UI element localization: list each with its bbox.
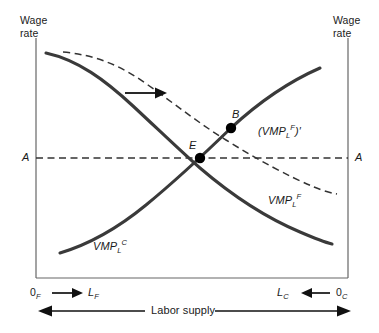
labor-supply-diagram: Wage rate Wage rate A A E B (VMPLF)′ VMP… — [0, 0, 379, 333]
point-e-marker — [195, 153, 205, 163]
point-label-e: E — [189, 139, 196, 151]
curve-vmp-f-shifted — [63, 52, 337, 194]
labor-supply-caption: Labor supply — [151, 304, 215, 316]
vmp-f-shift-sub: L — [286, 131, 290, 140]
direction-label-city: LC — [277, 286, 289, 300]
vmp-c-sup: C — [121, 238, 127, 247]
vmp-c-base: VMP — [93, 240, 117, 252]
point-label-b: B — [232, 108, 239, 120]
shift-arrow-icon — [125, 88, 167, 99]
vmp-f-shift-close: )′ — [295, 125, 301, 137]
curve-label-vmp-c: VMPLC — [93, 240, 127, 254]
vmp-c-sub: L — [117, 246, 121, 255]
left-axis-title: Wage rate — [20, 14, 47, 39]
left-origin-arrow-icon — [52, 288, 83, 298]
vmp-f-shift-base: VMP — [262, 125, 286, 137]
vmp-f-sup: F — [296, 192, 301, 201]
origin-city-sub: C — [342, 292, 348, 301]
curve-label-vmp-f: VMPLF — [268, 194, 301, 208]
right-axis-title: Wage rate — [333, 14, 360, 39]
point-b-marker — [226, 123, 236, 133]
vmp-f-base: VMP — [268, 194, 292, 206]
direction-farm-sub: F — [94, 292, 99, 301]
wage-level-label-right: A — [355, 151, 362, 163]
wage-level-label-left: A — [22, 151, 29, 163]
diagram-canvas — [0, 0, 379, 333]
origin-label-farm: 0F — [30, 286, 41, 300]
curve-label-vmp-f-shifted: (VMPLF)′ — [258, 125, 301, 139]
right-origin-arrow-icon — [301, 288, 330, 298]
origin-label-city: 0C — [336, 286, 347, 300]
vmp-f-sub: L — [292, 200, 296, 209]
vmp-f-shift-sup: F — [290, 123, 295, 132]
direction-city-sub: C — [283, 292, 289, 301]
origin-farm-sub: F — [36, 292, 41, 301]
direction-label-farm: LF — [88, 286, 99, 300]
